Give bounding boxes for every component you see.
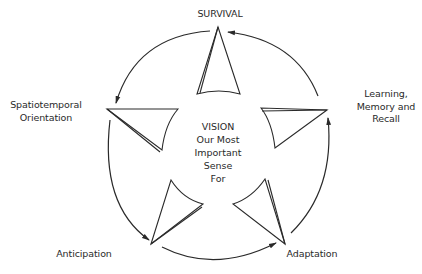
pointer-spatiotemporal [107,109,178,152]
pointer-anticipation [151,180,203,244]
pointer-survival [197,27,240,94]
center-title: VISION Our Most Important Sense For [178,120,258,185]
node-label-spatiotemporal: Spatiotemporal Orientation [0,99,92,124]
node-label-adaptation: Adaptation [282,248,342,261]
pointer-adaptation [233,179,285,244]
spatio-line-2: Orientation [0,112,92,125]
node-label-learning: Learning, Memory and Recall [350,88,422,126]
arrow-anticipation-to-adaptation [162,243,276,260]
pointer-learning [261,108,327,148]
center-line-5: For [178,172,258,185]
spatio-line-1: Spatiotemporal [0,99,92,112]
center-line-1: VISION [178,120,258,133]
vision-cycle-diagram: SURVIVAL Learning, Memory and Recall Ada… [0,0,422,274]
arrow-adaptation-to-learning [291,118,329,233]
node-label-anticipation: Anticipation [48,248,120,261]
learning-line-2: Memory and [350,101,422,114]
node-label-survival: SURVIVAL [190,8,250,21]
center-line-2: Our Most [178,133,258,146]
arrow-learning-to-survival [228,32,318,96]
arrow-survival-to-spatiotemporal [116,31,210,103]
center-line-3: Important [178,146,258,159]
learning-line-1: Learning, [350,88,422,101]
learning-line-3: Recall [350,113,422,126]
center-line-4: Sense [178,159,258,172]
